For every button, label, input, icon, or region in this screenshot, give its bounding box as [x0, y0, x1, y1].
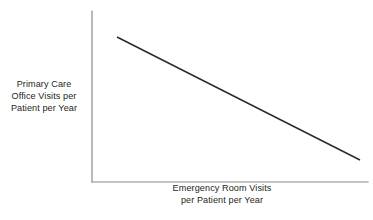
chart-figure: Primary Care Office Visits per Patient p… [0, 0, 373, 220]
x-axis-title: Emergency Room Visits per Patient per Ye… [152, 182, 292, 206]
trend-line-primary-care-vs-er [117, 37, 360, 160]
y-axis-title: Primary Care Office Visits per Patient p… [2, 78, 86, 115]
axes-group [92, 11, 368, 182]
data-series-group [117, 37, 360, 160]
